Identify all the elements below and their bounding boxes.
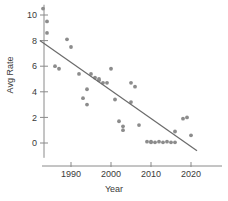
data-point: [109, 67, 113, 71]
data-point: [121, 128, 125, 132]
data-point: [149, 140, 153, 144]
data-point: [165, 140, 169, 144]
y-axis-label: Avg Rate: [5, 47, 15, 103]
data-points: [41, 7, 193, 145]
data-point: [153, 140, 157, 144]
data-point: [85, 87, 89, 91]
x-tick-label: 2000: [101, 169, 121, 179]
scatter-chart: 0246810 1990200020102020 Year Avg Rate: [0, 0, 228, 201]
data-point: [41, 7, 45, 11]
regression-line: [40, 41, 197, 151]
data-point: [85, 103, 89, 107]
data-point: [185, 116, 189, 120]
data-point: [181, 117, 185, 121]
data-point: [113, 98, 117, 102]
plot-area: 0246810 1990200020102020: [0, 0, 228, 201]
x-tick-label: 1990: [61, 169, 81, 179]
data-point: [65, 37, 69, 41]
x-axis: 1990200020102020: [42, 162, 222, 179]
y-tick-label: 8: [32, 36, 37, 46]
data-point: [121, 124, 125, 128]
x-tick-label: 2020: [181, 169, 201, 179]
data-point: [69, 45, 73, 49]
trend-line: [40, 41, 197, 151]
y-tick-label: 4: [32, 87, 37, 97]
data-point: [81, 96, 85, 100]
data-point: [169, 140, 173, 144]
data-point: [45, 31, 49, 35]
data-point: [45, 20, 49, 24]
data-point: [117, 119, 121, 123]
y-tick-label: 10: [27, 10, 37, 20]
data-point: [129, 81, 133, 85]
y-axis: 0246810: [27, 5, 48, 158]
data-point: [133, 85, 137, 89]
data-point: [77, 72, 81, 76]
y-tick-label: 2: [32, 113, 37, 123]
data-point: [105, 81, 109, 85]
data-point: [189, 133, 193, 137]
data-point: [145, 140, 149, 144]
data-point: [137, 123, 141, 127]
data-point: [53, 64, 57, 68]
data-point: [161, 140, 165, 144]
data-point: [157, 140, 161, 144]
data-point: [57, 67, 61, 71]
x-axis-label: Year: [0, 184, 228, 194]
data-point: [173, 130, 177, 134]
data-point: [173, 140, 177, 144]
y-tick-label: 0: [32, 138, 37, 148]
y-tick-label: 6: [32, 61, 37, 71]
x-tick-label: 2010: [141, 169, 161, 179]
